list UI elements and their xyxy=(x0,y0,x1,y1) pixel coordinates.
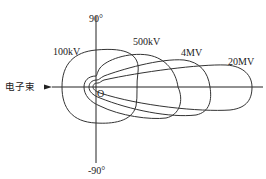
curve-label-100kV: 100kV xyxy=(53,47,80,57)
polar-dose-diagram xyxy=(0,0,266,179)
curve-100kV xyxy=(62,49,138,123)
beam-arrow-icon xyxy=(44,85,52,90)
beam-label: 电子束 xyxy=(5,82,35,92)
origin-label: O xyxy=(97,89,104,99)
curve-4MV xyxy=(89,60,211,116)
curve-label-500kV: 500kV xyxy=(133,37,160,47)
axis-bottom-label: -90° xyxy=(88,166,105,176)
curve-label-4MV: 4MV xyxy=(181,48,202,58)
curve-label-20MV: 20MV xyxy=(228,57,254,67)
axis-top-label: 90° xyxy=(89,14,103,24)
